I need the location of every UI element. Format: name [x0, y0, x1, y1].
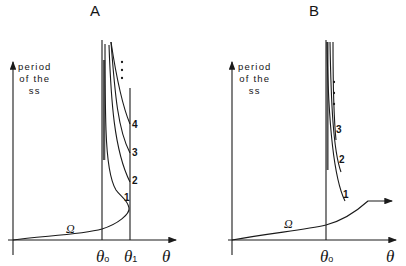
- panel-a-ellipsis-dot: [121, 69, 122, 70]
- panel-b-theta0-tick: θo: [320, 248, 333, 265]
- panel-a-curve-2: [109, 45, 130, 182]
- panel-a-omega-label: Ω: [66, 223, 75, 235]
- panel-b-curve-label-1: 1: [343, 190, 349, 200]
- panel-b-title: B: [309, 3, 319, 18]
- panel-b-y-label-line-3: ss: [238, 85, 272, 97]
- diagram-canvas: [0, 0, 406, 266]
- panel-b-omega-curve: [232, 201, 392, 240]
- panel-a-y-label-line-2: of the: [18, 73, 52, 85]
- panel-a-curve-label-3: 3: [132, 148, 138, 158]
- panel-b-curve-2: [330, 42, 341, 172]
- panel-a-theta1-subscript: 1: [132, 254, 137, 264]
- panel-b-y-label-line-1: period: [238, 61, 272, 73]
- panel-a-title: A: [90, 3, 100, 18]
- panel-b-curve-label-2: 2: [339, 155, 345, 165]
- panel-a-theta0-subscript: o: [104, 254, 109, 264]
- panel-a-y-label-line-1: period: [18, 61, 52, 73]
- panel-b-curve-label-3: 3: [336, 125, 342, 135]
- panel-b-ellipsis-dot: [333, 92, 334, 93]
- panel-b-curve-1: [327, 42, 345, 201]
- panel-b-omega-label: Ω: [284, 218, 293, 230]
- panel-a-ellipsis-dot: [121, 61, 122, 62]
- panel-a-curve-label-2: 2: [132, 176, 138, 186]
- panel-b-y-axis-label: period of the ss: [238, 61, 272, 97]
- panel-a-x-axis-label: θ: [162, 248, 170, 265]
- panel-a-curve-4: [111, 42, 130, 124]
- panel-a-curve-label-1: 1: [124, 193, 130, 203]
- panel-b-ellipsis-dot: [333, 81, 334, 82]
- panel-b-ellipsis-dot: [333, 103, 334, 104]
- panel-a-theta0-tick: θo: [96, 248, 109, 265]
- panel-a-theta1-tick: θ1: [124, 248, 137, 265]
- panel-a-y-axis-label: period of the ss: [18, 61, 52, 97]
- panel-b-x-axis-label: θ: [386, 248, 394, 265]
- panel-a-ellipsis-dot: [121, 77, 122, 78]
- panel-b-theta0-subscript: o: [328, 254, 333, 264]
- panel-a-curve-label-4: 4: [132, 120, 138, 130]
- panel-a-y-label-line-3: ss: [18, 85, 52, 97]
- panel-b-y-label-line-2: of the: [238, 73, 272, 85]
